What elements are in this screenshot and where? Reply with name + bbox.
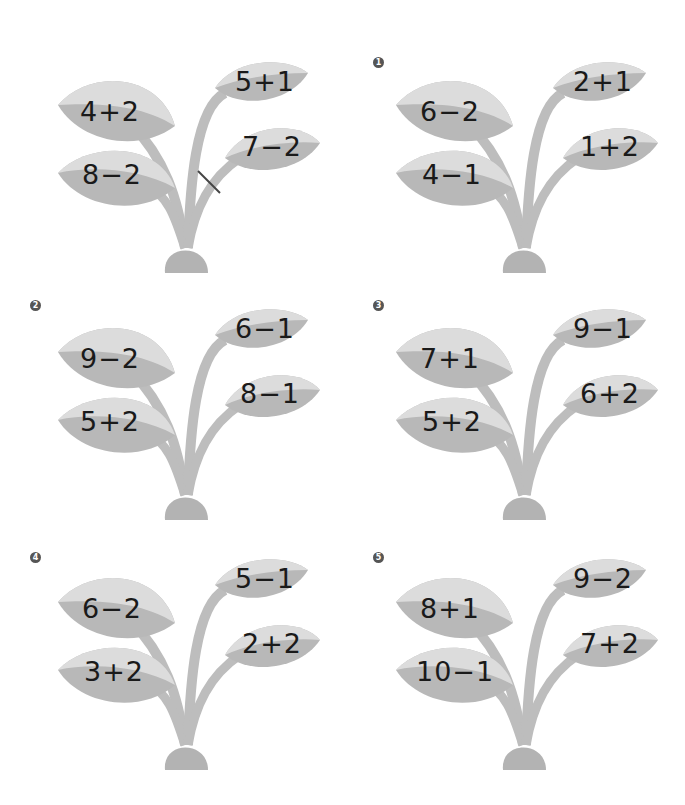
leaf-upper-right: 5+1: [235, 68, 295, 95]
leaf-lower-right: 8−1: [240, 380, 300, 407]
plant-example: 4+2 8−2 5+1 7−2: [50, 48, 320, 278]
leaf-upper-right: 9−1: [573, 315, 633, 342]
leaf-lower-left: 5+2: [422, 408, 482, 435]
leaf-lower-left: 8−2: [82, 161, 142, 188]
plant-problem-5: 8+1 10−1 9−2 7+2: [388, 545, 658, 775]
problem-number-badge: 3: [373, 300, 384, 311]
leaf-lower-right: 7+2: [580, 630, 640, 657]
leaf-upper-right: 9−2: [573, 565, 633, 592]
leaf-lower-right: 7−2: [242, 133, 302, 160]
plant-problem-3: 7+1 5+2 9−1 6+2: [388, 295, 658, 525]
problem-number-badge: 5: [373, 552, 384, 563]
leaf-upper-right: 5−1: [235, 565, 295, 592]
leaf-upper-left: 6−2: [82, 595, 142, 622]
leaf-lower-right: 1+2: [580, 133, 640, 160]
leaf-lower-left: 5+2: [80, 408, 140, 435]
leaf-upper-right: 2+1: [573, 68, 633, 95]
plant-problem-4: 6−2 3+2 5−1 2+2: [50, 545, 320, 775]
leaf-lower-left: 3+2: [84, 658, 144, 685]
leaf-upper-left: 9−2: [80, 345, 140, 372]
leaf-lower-left: 10−1: [416, 658, 494, 685]
problem-number-badge: 1: [373, 57, 384, 68]
leaf-lower-right: 6+2: [580, 380, 640, 407]
leaf-upper-right: 6−1: [235, 315, 295, 342]
leaf-lower-right: 2+2: [242, 630, 302, 657]
leaf-upper-left: 6−2: [420, 98, 480, 125]
problem-number-badge: 4: [30, 552, 41, 563]
leaf-upper-left: 4+2: [80, 98, 140, 125]
plant-problem-1: 6−2 4−1 2+1 1+2: [388, 48, 658, 278]
leaf-upper-left: 8+1: [420, 595, 480, 622]
plant-problem-2: 9−2 5+2 6−1 8−1: [50, 295, 320, 525]
leaf-lower-left: 4−1: [422, 161, 482, 188]
leaf-upper-left: 7+1: [420, 345, 480, 372]
problem-number-badge: 2: [30, 300, 41, 311]
